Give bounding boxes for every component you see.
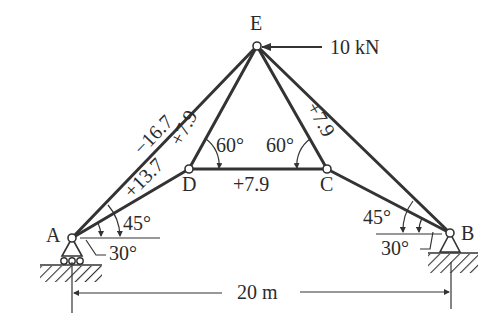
joint-E (253, 42, 261, 50)
node-label-E: E (250, 12, 262, 34)
span-label: 20 m (237, 281, 278, 303)
node-label-A: A (46, 224, 61, 246)
angle-label-A-45: 45° (123, 212, 151, 234)
angle-arc-B-45 (403, 201, 413, 232)
node-label-D: D (182, 173, 196, 195)
angle-arc-B-30 (419, 218, 422, 232)
joint-B (446, 229, 454, 237)
force-label-DE: +7.9 (165, 107, 201, 149)
angle-arc-C (297, 139, 310, 168)
leader-A-30 (86, 240, 106, 255)
angle-label-B-45: 45° (363, 206, 391, 228)
node-label-B: B (461, 222, 474, 244)
node-label-C: C (320, 173, 333, 195)
joint-A (68, 234, 76, 242)
angle-arc-A-30 (98, 223, 101, 236)
joint-C (323, 165, 331, 173)
angle-label-D: 60° (216, 134, 244, 156)
angle-label-A-30: 30° (109, 242, 137, 264)
truss-diagram: 10 kN E A B D C −16.7 +13.7 +7.9 +7.9 +7… (0, 0, 502, 324)
angle-label-B-30: 30° (381, 237, 409, 259)
angle-label-C: 60° (266, 134, 294, 156)
joint-D (185, 165, 193, 173)
members (72, 46, 450, 238)
load-label: 10 kN (330, 36, 379, 58)
force-label-DC: +7.9 (233, 173, 269, 195)
